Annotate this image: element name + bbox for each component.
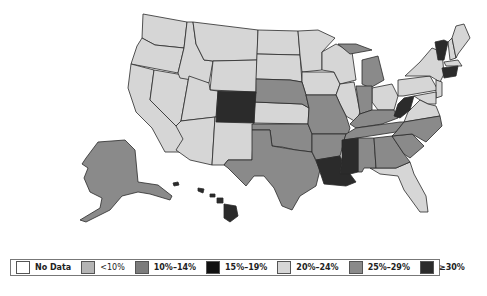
state-az (176, 117, 215, 165)
state-me (452, 24, 470, 58)
state-mt (193, 22, 258, 61)
legend-swatch-lt10 (81, 261, 95, 274)
map-legend: No Data <10% 10%–14% 15%–19% 20%–24% 25%… (10, 259, 440, 276)
legend-item-no-data: No Data (16, 261, 71, 274)
legend-swatch-20-24 (277, 261, 291, 274)
state-mi (362, 56, 384, 88)
legend-label: No Data (35, 263, 71, 272)
state-hi (173, 182, 238, 222)
state-ct-ri (442, 66, 458, 78)
legend-label: 25%–29% (368, 263, 410, 272)
legend-swatch-ge30 (420, 261, 434, 274)
state-nj (436, 80, 442, 98)
state-ks (254, 102, 309, 124)
legend-item-25-29: 25%–29% (349, 261, 410, 274)
state-ar (312, 134, 346, 160)
us-choropleth-map (0, 0, 487, 250)
state-al (358, 138, 376, 172)
legend-label: <10% (100, 263, 124, 272)
legend-item-10-14: 10%–14% (135, 261, 196, 274)
legend-item-15-19: 15%–19% (206, 261, 267, 274)
state-wy (210, 60, 257, 92)
legend-label: 10%–14% (154, 263, 196, 272)
state-ia (302, 72, 340, 95)
state-sd (256, 54, 302, 82)
state-ak (80, 140, 172, 222)
legend-label: 20%–24% (296, 263, 338, 272)
legend-label: 15%–19% (225, 263, 267, 272)
state-ma (444, 60, 462, 66)
state-nm (212, 117, 254, 165)
legend-item-20-24: 20%–24% (277, 261, 338, 274)
legend-label: ≥30% (439, 263, 465, 272)
state-nd (257, 30, 300, 55)
state-ms (340, 138, 358, 174)
legend-item-ge30: ≥30% (420, 261, 465, 274)
state-oh (372, 84, 398, 110)
legend-swatch-15-19 (206, 261, 220, 274)
legend-swatch-10-14 (135, 261, 149, 274)
state-co (216, 91, 256, 123)
legend-swatch-no-data (16, 261, 30, 274)
legend-swatch-25-29 (349, 261, 363, 274)
state-fl (370, 162, 428, 212)
legend-item-lt10: <10% (81, 261, 124, 274)
